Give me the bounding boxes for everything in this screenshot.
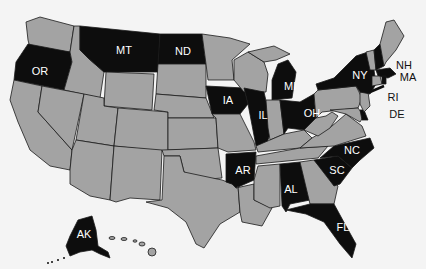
state-az[interactable] [70, 140, 114, 200]
label-nc: NC [344, 145, 360, 156]
state-nm[interactable] [110, 146, 162, 202]
state-wy[interactable] [104, 72, 154, 110]
label-sc: SC [329, 165, 344, 176]
map-canvas [0, 0, 426, 269]
state-hi[interactable] [109, 237, 156, 257]
state-ct[interactable] [372, 76, 382, 86]
state-sd[interactable] [156, 64, 206, 98]
label-nd: ND [175, 46, 191, 57]
label-ma: MA [400, 72, 417, 83]
label-mi: MI [284, 81, 296, 92]
label-mt: MT [116, 45, 132, 56]
state-co[interactable] [114, 108, 168, 152]
state-mo[interactable] [212, 114, 256, 152]
label-or: OR [32, 66, 49, 77]
label-il: IL [258, 110, 267, 121]
label-al: AL [284, 184, 297, 195]
alaska-aleutians [47, 257, 65, 264]
label-ny: NY [352, 70, 367, 81]
label-oh: OH [304, 108, 321, 119]
state-nj[interactable] [360, 92, 370, 112]
label-ri: RI [388, 92, 399, 103]
state-ms[interactable] [254, 164, 280, 208]
label-nh: NH [396, 60, 412, 71]
label-de: DE [389, 109, 404, 120]
label-fl: FL [337, 222, 350, 233]
label-ar: AR [235, 165, 250, 176]
state-ks[interactable] [168, 118, 218, 150]
state-ri[interactable] [382, 76, 386, 84]
label-ak: AK [77, 229, 92, 240]
us-states-map: OR MT ND IA IL MI OH NY NH MA RI DE NC S… [0, 0, 426, 269]
label-ia: IA [223, 95, 233, 106]
